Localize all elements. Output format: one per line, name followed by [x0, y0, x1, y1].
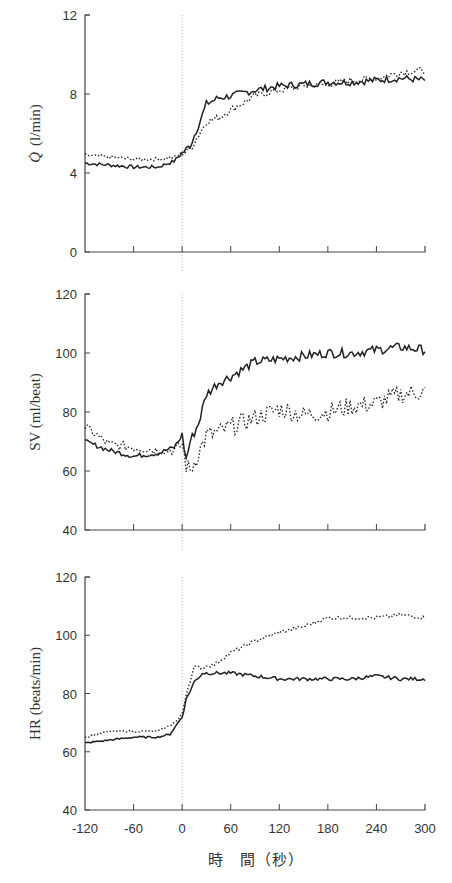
axes: [85, 15, 425, 252]
y-tick-label: 100: [55, 346, 77, 361]
series-dotted: [85, 386, 425, 472]
x-tick-label: 60: [223, 821, 237, 836]
chart: 04812Q̇(l/min)406080100120SV (ml/beat)40…: [0, 0, 452, 883]
y-axis-title: SV (ml/beat): [27, 373, 44, 451]
y-tick-label: 8: [70, 87, 77, 102]
y-tick-label: 40: [63, 803, 77, 818]
x-tick-label: 240: [366, 821, 388, 836]
y-tick-label: 80: [63, 405, 77, 420]
panel-cardiac-output: 04812Q̇(l/min): [27, 8, 425, 272]
x-axis-title: 時 間（秒）: [208, 848, 304, 869]
x-tick-label: 180: [317, 821, 339, 836]
y-axis-title: Q̇(l/min): [27, 104, 44, 163]
y-tick-label: 100: [55, 628, 77, 643]
y-tick-label: 12: [63, 8, 77, 23]
y-tick-label: 60: [63, 464, 77, 479]
y-tick-label: 120: [55, 287, 77, 302]
y-tick-label: 4: [70, 166, 77, 181]
panel-heart-rate: 406080100120-120-60060120180240300HR (be…: [27, 570, 436, 836]
y-tick-label: 80: [63, 687, 77, 702]
y-tick-label: 0: [70, 245, 77, 260]
x-tick-label: 0: [179, 821, 186, 836]
x-tick-label: -120: [72, 821, 98, 836]
axes: [85, 577, 425, 810]
series-solid: [85, 76, 425, 169]
series-dotted: [85, 68, 425, 161]
y-tick-label: 60: [63, 745, 77, 760]
panel-stroke-volume: 406080100120SV (ml/beat): [27, 287, 425, 550]
x-tick-label: -60: [124, 821, 143, 836]
y-axis-title: HR (beats/min): [27, 647, 44, 740]
series-solid: [85, 343, 425, 458]
x-tick-label: 300: [414, 821, 436, 836]
x-tick-label: 120: [268, 821, 290, 836]
y-tick-label: 40: [63, 523, 77, 538]
y-tick-label: 120: [55, 570, 77, 585]
